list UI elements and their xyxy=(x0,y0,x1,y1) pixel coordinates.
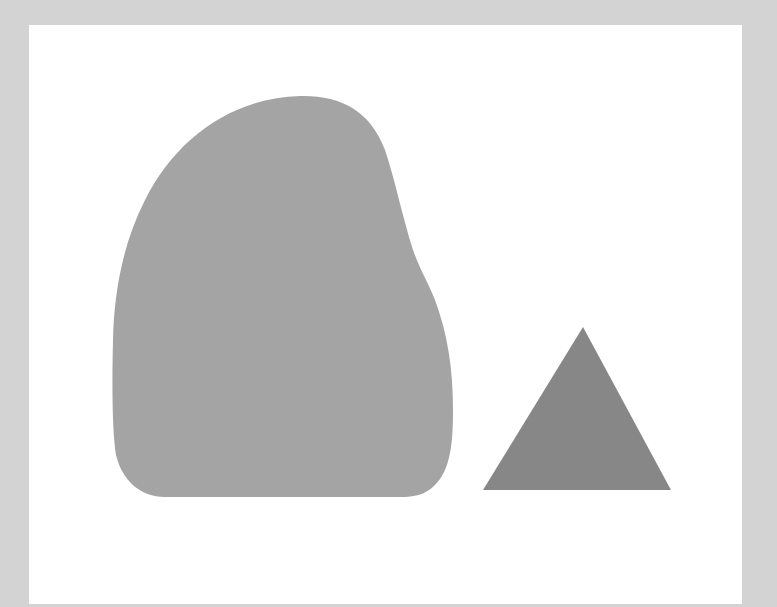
triangle-shape xyxy=(483,327,671,490)
rounded-blob-shape xyxy=(112,96,453,497)
stage xyxy=(0,0,777,607)
shapes-layer xyxy=(0,0,777,607)
